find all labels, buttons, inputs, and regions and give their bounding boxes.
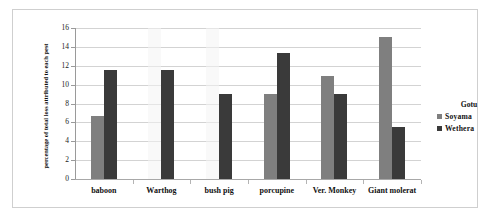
y-tick-label: 6	[65, 118, 69, 126]
bar-wethera-porcupine	[277, 53, 290, 179]
chart-frame: percentage of total loss attributed to e…	[12, 9, 478, 208]
bar-soyama-ver-monkey	[321, 76, 334, 179]
bar-wethera-baboon	[104, 70, 117, 179]
y-tick-label: 4	[65, 137, 69, 145]
y-axis-line	[75, 28, 76, 180]
bar-group	[190, 28, 248, 179]
y-tick-label: 0	[65, 175, 69, 183]
y-tick-label: 12	[62, 62, 70, 70]
y-axis-title-text: percentage of total loss attributed to e…	[41, 26, 51, 186]
legend-item: Soyama	[437, 112, 492, 121]
x-axis-label: baboon	[75, 185, 133, 196]
legend-item: Wethera	[437, 124, 492, 133]
bar-group	[306, 28, 364, 179]
y-tick-label: 8	[65, 100, 69, 108]
bar-soyama-porcupine	[264, 94, 277, 179]
bar-soyama-baboon	[91, 116, 104, 179]
x-tick-mark	[133, 180, 134, 184]
bar-group	[248, 28, 306, 179]
y-axis-title: percentage of total loss attributed to e…	[33, 26, 59, 186]
x-tick-mark	[421, 180, 422, 184]
x-axis-labels: baboonWarthogbush pigporcupineVer. Monke…	[75, 185, 421, 221]
bar-wethera-ver-monkey	[334, 94, 347, 179]
chart-legend: Gotu SoyamaWethera	[437, 100, 492, 135]
legend-title: Gotu	[437, 100, 492, 109]
x-axis-label: Giant molerat	[363, 185, 421, 196]
x-axis-label: Ver. Monkey	[306, 185, 364, 196]
legend-label: Soyama	[445, 112, 472, 121]
bar-wethera-warthog	[161, 70, 174, 179]
bar-soyama-warthog	[148, 28, 161, 179]
y-tick-label: 2	[65, 156, 69, 164]
bar-wethera-bush-pig	[219, 94, 232, 179]
legend-label: Wethera	[445, 124, 474, 133]
bar-soyama-giant-molerat	[379, 37, 392, 179]
bar-group	[75, 28, 133, 179]
x-tick-mark	[190, 180, 191, 184]
plot-area: 0246810121416	[75, 28, 421, 180]
x-axis-label: Warthog	[133, 185, 191, 196]
y-tick-label: 14	[62, 43, 70, 51]
x-tick-mark	[306, 180, 307, 184]
x-axis-line	[75, 179, 421, 180]
legend-items: SoyamaWethera	[437, 112, 492, 133]
y-tick-label: 16	[62, 24, 70, 32]
x-axis-label: bush pig	[190, 185, 248, 196]
x-tick-mark	[248, 180, 249, 184]
bar-group	[363, 28, 421, 179]
bar-group	[133, 28, 191, 179]
legend-swatch-icon	[437, 126, 442, 131]
x-axis-label: porcupine	[248, 185, 306, 196]
x-tick-mark	[363, 180, 364, 184]
legend-swatch-icon	[437, 114, 442, 119]
bar-soyama-bush-pig	[206, 28, 219, 179]
y-tick-label: 10	[62, 81, 70, 89]
bar-wethera-giant-molerat	[392, 127, 405, 179]
